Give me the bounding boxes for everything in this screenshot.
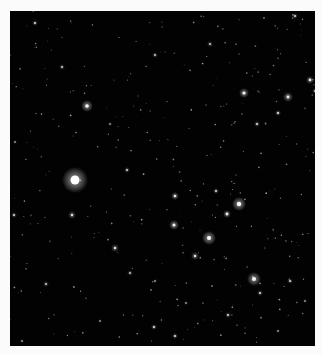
star [13,214,15,216]
star [45,283,47,285]
star [71,176,80,185]
star [174,335,176,337]
star [174,195,177,198]
star [61,66,63,68]
star [109,123,111,125]
star [21,340,23,342]
star [185,302,187,304]
star [126,169,128,171]
star [14,141,16,143]
star [277,330,279,332]
star [289,280,291,282]
star [153,326,155,328]
star [154,280,156,282]
star [277,112,279,114]
star [242,91,245,94]
star [226,213,229,216]
star [34,22,36,24]
star [287,96,290,99]
star [154,54,156,56]
star [309,79,312,82]
star [227,314,229,316]
star [215,190,217,192]
star-field-canvas [10,11,315,346]
star [259,292,261,294]
star [114,247,116,249]
star-field-image: Star field [10,11,315,346]
star [207,236,211,240]
star [256,123,258,125]
star [194,255,196,257]
star [129,272,131,274]
star [237,202,241,206]
star [209,43,211,45]
star [294,15,296,17]
star [173,224,176,227]
star [85,104,89,108]
star [252,277,256,281]
star [99,320,101,322]
star [71,214,73,216]
star [304,300,306,302]
